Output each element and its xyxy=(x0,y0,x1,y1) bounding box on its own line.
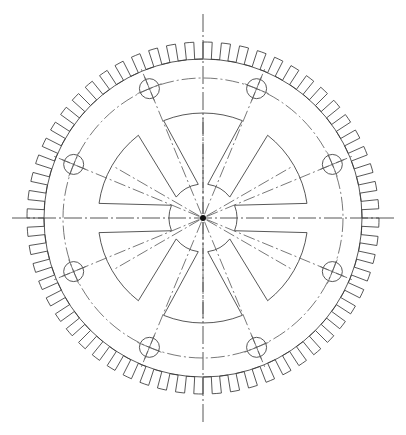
bolt-hole-crosshair-b xyxy=(69,152,79,176)
gear-drawing-svg xyxy=(0,0,406,435)
spoke-centerline-5 xyxy=(114,167,200,217)
bolt-hole-crosshair-b xyxy=(327,152,337,176)
bolt-hole-6 xyxy=(62,152,86,176)
bolt-hole-7 xyxy=(137,77,161,101)
spoke-centerline-1 xyxy=(206,167,292,217)
bolt-hole-crosshair-b xyxy=(327,260,337,284)
bolt-hole-0 xyxy=(245,77,269,101)
bolt-hole-crosshair-b xyxy=(137,84,161,94)
center-hub-dot xyxy=(200,215,206,221)
bolt-hole-3 xyxy=(245,335,269,359)
hub-layer xyxy=(200,215,206,221)
bolt-hole-5 xyxy=(62,260,86,284)
bolt-hole-crosshair-b xyxy=(137,342,161,352)
technical-drawing-canvas xyxy=(0,0,406,435)
bolt-hole-4 xyxy=(137,335,161,359)
bolt-hole-crosshair-b xyxy=(69,260,79,284)
bolt-hole-crosshair-b xyxy=(245,342,269,352)
spoke-centerline-4 xyxy=(114,220,200,270)
bolt-hole-crosshair-b xyxy=(245,84,269,94)
spoke-centerline-2 xyxy=(206,220,292,270)
bolt-hole-1 xyxy=(320,152,344,176)
bolt-hole-2 xyxy=(320,260,344,284)
